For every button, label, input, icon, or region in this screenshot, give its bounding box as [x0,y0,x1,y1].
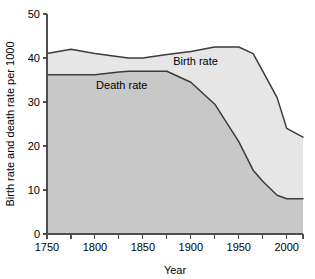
x-tick-label: 1900 [179,241,203,253]
x-tick-label: 2000 [274,241,298,253]
death-rate-label: Death rate [96,79,147,91]
y-tick-label: 30 [28,96,40,108]
y-axis-tick-labels: 01020304050 [28,8,40,240]
y-axis-title: Birth rate and death rate per 1000 [4,41,16,206]
x-tick-label: 1800 [83,241,107,253]
y-tick-label: 20 [28,140,40,152]
birth-rate-label: Birth rate [173,55,218,67]
chart-canvas: 01020304050 175018001850190019502000 Bir… [0,0,315,279]
x-axis-tick-labels: 175018001850190019502000 [35,241,299,253]
y-tick-label: 10 [28,184,40,196]
y-tick-label: 0 [34,228,40,240]
x-tick-label: 1950 [227,241,251,253]
y-tick-label: 50 [28,8,40,20]
x-tick-label: 1750 [35,241,59,253]
x-axis-tick-marks [47,234,303,239]
x-axis-title: Year [164,264,187,276]
y-tick-label: 40 [28,52,40,64]
demographic-transition-chart: 01020304050 175018001850190019502000 Bir… [0,0,315,279]
x-tick-label: 1850 [131,241,155,253]
